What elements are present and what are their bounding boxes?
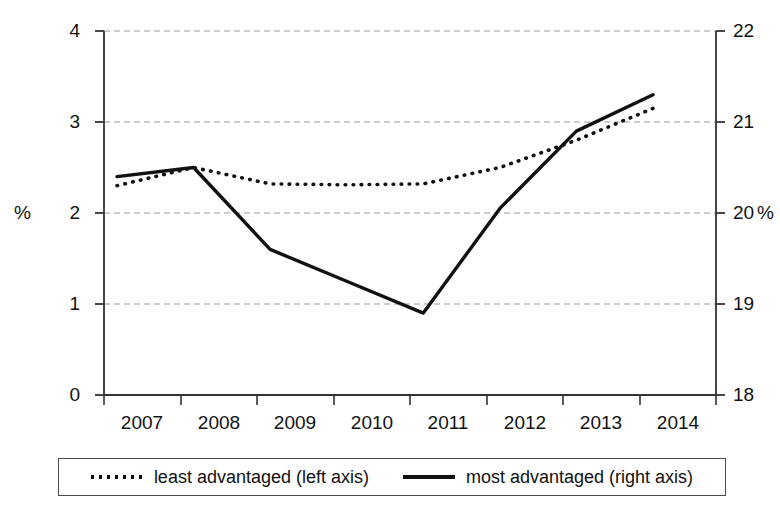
x-axis-tick-2012: 2012 (504, 412, 546, 434)
legend-label-most-advantaged: most advantaged (right axis) (466, 467, 693, 488)
left-axis-unit-label: % (14, 202, 31, 224)
left-axis-tick-4: 4 (44, 20, 80, 42)
x-axis-tick-2008: 2008 (198, 412, 240, 434)
right-axis-spine (716, 31, 725, 395)
right-axis-tick-22: 22 (733, 20, 754, 42)
left-axis-tick-2: 2 (44, 202, 80, 224)
legend-label-least-advantaged: least advantaged (left axis) (154, 467, 369, 488)
x-axis-tick-2014: 2014 (657, 412, 699, 434)
solid-line-swatch-icon (403, 470, 455, 484)
x-axis-tick-2009: 2009 (274, 412, 316, 434)
left-axis-tick-0: 0 (44, 384, 80, 406)
chart-legend: least advantaged (left axis) most advant… (58, 458, 726, 496)
right-axis-tick-18: 18 (733, 384, 754, 406)
x-axis-tick-2013: 2013 (580, 412, 622, 434)
right-axis-tick-20: 20 (733, 202, 754, 224)
plot-area (0, 0, 780, 520)
legend-entry-least-advantaged: least advantaged (left axis) (91, 467, 369, 488)
right-axis-tick-19: 19 (733, 293, 754, 315)
left-axis-spine (95, 31, 104, 395)
x-axis-tick-2011: 2011 (428, 412, 469, 434)
x-axis-spine (104, 395, 716, 405)
left-axis-tick-3: 3 (44, 111, 80, 133)
right-axis-tick-21: 21 (733, 111, 754, 133)
legend-entry-most-advantaged: most advantaged (right axis) (403, 467, 693, 488)
right-axis-unit-label: % (757, 202, 774, 224)
series-line-least-advantaged (117, 108, 653, 185)
left-axis-tick-1: 1 (44, 293, 80, 315)
dotted-line-swatch-icon (91, 470, 143, 484)
chart-container: 4 3 2 1 0 % 22 21 20 19 18 % 2007 2008 2… (0, 0, 780, 520)
x-axis-tick-2007: 2007 (121, 412, 163, 434)
series-line-most-advantaged (117, 95, 653, 313)
x-axis-tick-2010: 2010 (351, 412, 393, 434)
